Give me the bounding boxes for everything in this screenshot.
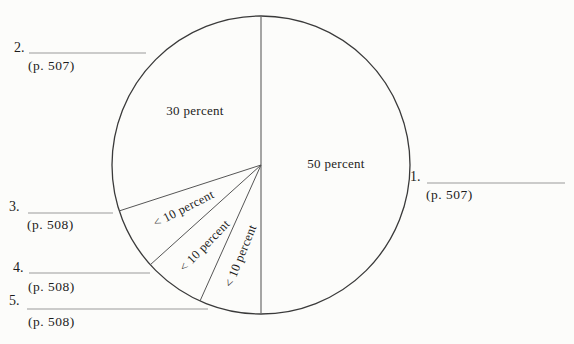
answer-page-ref-4: (p. 508) xyxy=(28,279,75,295)
answer-number-3: 3. xyxy=(9,199,20,215)
pie-chart xyxy=(0,0,574,344)
pie-chart-worksheet: 50 percent 30 percent < 10 percent < 10 … xyxy=(0,0,574,344)
answer-page-ref-2: (p. 507) xyxy=(28,58,75,74)
slice-label-50-percent: 50 percent xyxy=(307,156,365,172)
answer-number-2: 2. xyxy=(14,40,25,56)
answer-page-ref-5: (p. 508) xyxy=(28,314,75,330)
answer-page-ref-3: (p. 508) xyxy=(27,217,74,233)
answer-page-ref-1: (p. 507) xyxy=(426,187,473,203)
answer-number-5: 5. xyxy=(9,293,20,309)
answer-number-4: 4. xyxy=(13,260,24,276)
answer-number-1: 1. xyxy=(410,169,421,185)
slice-label-30-percent: 30 percent xyxy=(166,103,224,119)
